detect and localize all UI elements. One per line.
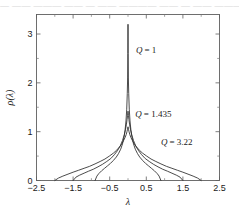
y-tick-label: 3 — [27, 29, 32, 39]
annotation-label: Q= 1.435 — [135, 109, 172, 119]
annotation-label: Q= 3.22 — [161, 137, 193, 147]
y-tick-label: 0 — [27, 176, 32, 186]
y-tick-label: 2 — [27, 78, 32, 88]
x-tick-label: 2.5 — [213, 183, 226, 193]
y-tick-label: 1 — [27, 127, 32, 137]
x-axis-label: λ — [125, 196, 131, 207]
annotation-label: Q= 1 — [136, 45, 156, 55]
x-tick-label: −0.5 — [101, 183, 119, 193]
x-tick-label: 1.5 — [177, 183, 190, 193]
x-tick-label: −1.5 — [64, 183, 82, 193]
x-tick-label: 0.5 — [140, 183, 153, 193]
density-plot: −2.5−1.5−0.50.51.52.50123 λρ(λ) Q= 1Q= 1… — [0, 0, 239, 217]
figure-eigenvalue-density: — —— ——— —— — —— ———— —— — —— ——— —— —— … — [0, 0, 239, 217]
y-axis-label: ρ(λ) — [4, 89, 16, 106]
